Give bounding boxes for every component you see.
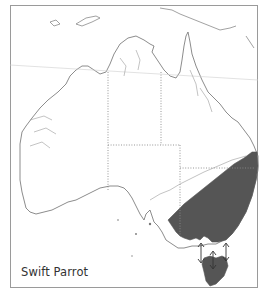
map-title: Swift Parrot bbox=[21, 265, 88, 279]
southern-islets bbox=[117, 219, 151, 257]
australia-map bbox=[0, 0, 266, 296]
tasmania bbox=[202, 256, 228, 286]
northern-islands bbox=[50, 8, 254, 48]
double-arrow-icon bbox=[223, 243, 229, 261]
double-arrow-icon bbox=[198, 243, 204, 263]
